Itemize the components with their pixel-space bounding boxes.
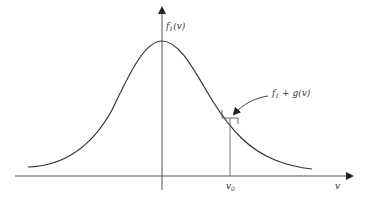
- y-axis-label: f1(v): [165, 21, 186, 32]
- bell-curve: [28, 41, 312, 169]
- distribution-diagram: f1(v) f1 + g(v) v0 v: [0, 0, 369, 200]
- annotation-arrow: [234, 96, 268, 114]
- annotation-label: f1 + g(v): [271, 88, 311, 99]
- v0-label: v0: [226, 181, 235, 192]
- x-axis-label: v: [335, 181, 340, 191]
